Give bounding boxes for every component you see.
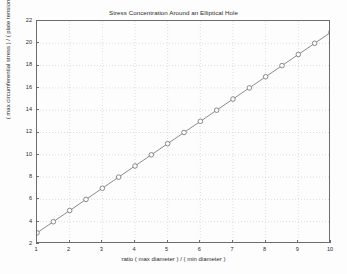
x-tick-mark	[69, 240, 70, 243]
x-tick-label: 7	[223, 246, 241, 252]
y-tick-mark	[36, 221, 39, 222]
y-tick-mark	[36, 87, 39, 88]
plot-area	[36, 20, 330, 243]
x-tick-label: 3	[92, 246, 110, 252]
y-tick-mark	[36, 65, 39, 66]
x-tick-label: 9	[288, 246, 306, 252]
y-tick-mark	[36, 132, 39, 133]
x-tick-mark	[36, 240, 37, 243]
y-tick-label: 18	[10, 61, 32, 67]
y-tick-mark	[36, 198, 39, 199]
x-tick-mark	[199, 240, 200, 243]
x-tick-label: 5	[158, 246, 176, 252]
y-tick-mark	[36, 154, 39, 155]
y-tick-label: 2	[10, 240, 32, 246]
x-tick-mark	[265, 240, 266, 243]
y-tick-label: 4	[10, 218, 32, 224]
x-tick-label: 4	[125, 246, 143, 252]
y-axis-label-wrapper: ( max circumferential stress ) / ( plate…	[0, 38, 117, 52]
x-tick-mark	[232, 240, 233, 243]
x-tick-label: 8	[256, 246, 274, 252]
chart-title: Stress Concentration Around an Elliptica…	[0, 9, 347, 16]
y-tick-label: 6	[10, 195, 32, 201]
x-tick-mark	[297, 240, 298, 243]
y-tick-label: 8	[10, 173, 32, 179]
x-tick-mark	[134, 240, 135, 243]
x-tick-label: 1	[27, 246, 45, 252]
y-tick-mark	[36, 20, 39, 21]
y-axis-label: ( max circumferential stress ) / ( plate…	[5, 0, 11, 150]
y-tick-mark	[36, 109, 39, 110]
x-tick-mark	[101, 240, 102, 243]
x-tick-mark	[330, 240, 331, 243]
y-tick-label: 12	[10, 128, 32, 134]
y-tick-mark	[36, 176, 39, 177]
x-tick-mark	[167, 240, 168, 243]
y-tick-label: 16	[10, 84, 32, 90]
data-layer	[37, 21, 330, 243]
y-tick-label: 14	[10, 106, 32, 112]
y-tick-label: 22	[10, 17, 32, 23]
y-tick-label: 10	[10, 151, 32, 157]
x-tick-label: 2	[60, 246, 78, 252]
x-tick-label: 6	[190, 246, 208, 252]
y-tick-mark	[36, 243, 39, 244]
figure-canvas: Stress Concentration Around an Elliptica…	[0, 0, 347, 274]
x-axis-label: ratio ( max diameter ) / ( min diameter …	[0, 256, 347, 262]
x-tick-label: 10	[321, 246, 339, 252]
